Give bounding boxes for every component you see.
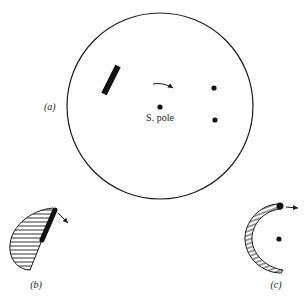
rotation-arrow-icon	[153, 84, 173, 89]
panel-b: (b)	[10, 208, 68, 291]
south-pole-dot	[157, 104, 162, 109]
bar-end-c	[277, 203, 284, 210]
bar-magnet	[104, 66, 118, 94]
motion-arrow-c-icon	[286, 207, 298, 208]
panel-a: S. pole (a)	[44, 13, 253, 199]
diagram-canvas: S. pole (a) (b) (c)	[0, 0, 306, 300]
panel-c: (c)	[245, 203, 298, 292]
pole-label: S. pole	[146, 112, 174, 123]
panel-a-label: (a)	[44, 101, 56, 113]
center-dot-c	[276, 236, 281, 241]
dot-upper-right	[211, 85, 216, 90]
panel-c-label: (c)	[270, 279, 282, 291]
motion-arrow-b-icon	[58, 213, 68, 223]
half-disk-hatched	[10, 208, 55, 270]
panel-b-label: (b)	[30, 279, 42, 291]
dot-lower-right	[212, 117, 217, 122]
